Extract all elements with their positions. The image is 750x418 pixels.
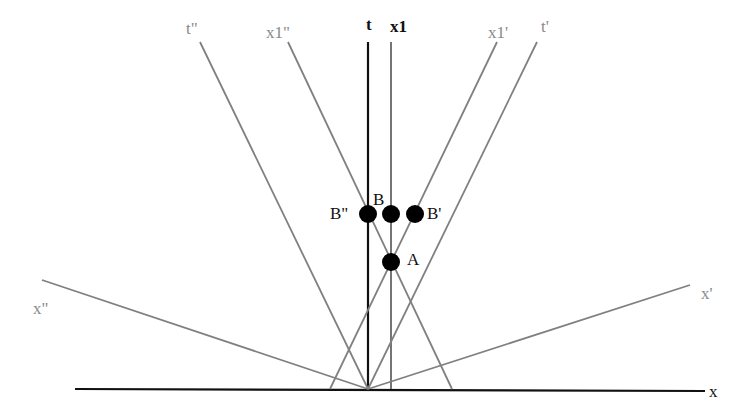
event-point-B [382,205,400,223]
axis-label-x1-p: x1' [488,24,508,41]
axis-label-x1-pp: x1" [266,24,290,41]
axis-label-t: t [366,16,372,33]
spacetime-diagram [0,0,750,418]
event-point-A [382,253,400,271]
event-point-B-p [406,205,424,223]
axis-label-x-pp: x" [33,300,48,317]
point-label-B: B [373,191,384,208]
axis-line-x [75,389,705,391]
axis-label-x-p: x' [701,285,713,302]
point-label-A: A [407,251,419,268]
axis-label-t-pp: t" [186,20,198,37]
axis-line-x-p [368,285,690,389]
point-label-B-pp: B" [330,205,348,222]
axis-line-x-pp [42,280,368,389]
axis-label-t-p: t' [541,18,549,35]
point-label-B-p: B' [427,205,441,222]
axis-label-x1: x1 [390,18,407,35]
axis-label-x: x [709,383,718,400]
